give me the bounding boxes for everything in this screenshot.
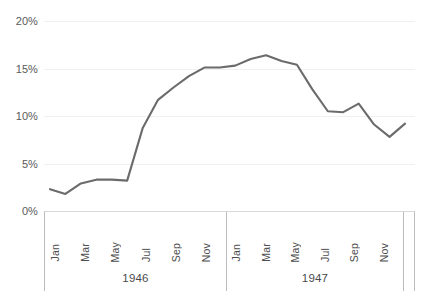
x-axis-month-label: Nov — [200, 243, 212, 262]
x-axis-year-group-1946: JanMarMayJulSepNov 1946 — [45, 212, 227, 291]
month-labels-1947: JanMarMayJulSepNov — [227, 212, 403, 264]
x-axis-year-group-1947: JanMarMayJulSepNov 1947 — [227, 212, 404, 291]
y-axis: 0%5%10%15%20% — [0, 21, 38, 211]
x-axis-month-label: Mar — [260, 243, 272, 262]
line-chart: 0%5%10%15%20% JanMarMayJulSepNov 1946 Ja… — [0, 0, 435, 297]
plot-area — [44, 21, 415, 211]
month-labels-1946: JanMarMayJulSepNov — [45, 212, 226, 264]
x-axis-month-label: May — [289, 242, 301, 262]
x-axis-month-label: May — [109, 242, 121, 262]
y-axis-tick-label: 0% — [22, 205, 38, 217]
x-axis-month-label: Jan — [49, 244, 61, 262]
year-label: 1947 — [302, 272, 328, 284]
year-label: 1946 — [122, 272, 148, 284]
x-axis-month-label: Jul — [140, 248, 152, 262]
x-axis-month-label: Jul — [319, 248, 331, 262]
series-line — [44, 21, 415, 211]
x-axis-tail-cell — [404, 212, 414, 291]
x-axis-month-label: Sep — [348, 243, 360, 262]
y-axis-tick-label: 5% — [22, 158, 38, 170]
y-axis-tick-label: 20% — [16, 15, 38, 27]
y-axis-tick-label: 10% — [16, 110, 38, 122]
x-axis-month-label: Mar — [79, 243, 91, 262]
year-label-row-1946: 1946 — [45, 264, 226, 291]
year-label-row-1947: 1947 — [227, 264, 403, 291]
x-axis-month-label: Jan — [230, 244, 242, 262]
y-axis-tick-label: 15% — [16, 63, 38, 75]
x-axis-table: JanMarMayJulSepNov 1946 JanMarMayJulSepN… — [44, 211, 415, 291]
x-axis-month-label: Sep — [170, 243, 182, 262]
x-axis-month-label: Nov — [378, 243, 390, 262]
